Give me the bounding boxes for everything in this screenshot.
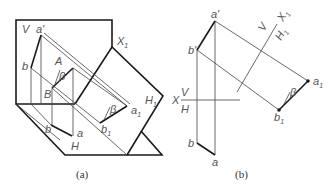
label-b1: b1 — [101, 123, 111, 137]
label-V1: V — [255, 19, 270, 33]
x1-axis — [237, 24, 277, 92]
projection-diagram: V a' b A β B X1 H1 β a1 b1 b a H (a) — [0, 0, 336, 192]
label-a: a — [212, 156, 218, 168]
projector-b-b1 — [197, 50, 279, 110]
line-ab-h — [51, 125, 72, 136]
point-a1 — [306, 79, 310, 83]
label-H1: H1 — [145, 94, 157, 108]
label-b-prime: b' — [188, 44, 197, 56]
projector-a-a1 — [41, 35, 127, 106]
label-b1: b1 — [274, 111, 284, 125]
line-a-prime-b-prime — [197, 21, 215, 50]
label-beta-top: β — [58, 70, 66, 82]
line-ab — [197, 143, 215, 155]
projector-A-a1 — [73, 68, 127, 106]
label-a1: a1 — [131, 104, 141, 118]
label-V: V — [22, 23, 31, 35]
figure-a: V a' b A β B X1 H1 β a1 b1 b a H (a) — [16, 20, 163, 181]
v-plane-outline — [16, 20, 112, 104]
label-beta: β — [289, 86, 297, 98]
label-A: A — [54, 55, 62, 67]
h-diag-1 — [16, 104, 60, 140]
label-a-h: a — [77, 127, 83, 139]
label-X: X — [171, 94, 180, 106]
label-a-prime: a' — [36, 23, 45, 35]
label-a1: a1 — [313, 75, 323, 89]
label-X1: X1 — [116, 35, 128, 49]
label-H: H — [181, 103, 189, 115]
label-H: H — [71, 140, 79, 152]
label-B: B — [44, 88, 51, 100]
caption-b: (b) — [235, 168, 248, 181]
label-H1: H1 — [272, 26, 290, 43]
figure-b: a' b' X V H V H1 X1 a1 b1 β b a (b) — [171, 7, 323, 181]
label-b: b — [22, 60, 28, 72]
line-a-prime-b — [31, 35, 41, 68]
label-X1: X1 — [274, 7, 292, 25]
label-a-prime: a' — [211, 8, 220, 20]
label-b: b — [188, 137, 194, 149]
caption-a: (a) — [76, 168, 89, 181]
label-beta-right: β — [109, 103, 117, 115]
label-b-h: b — [45, 123, 51, 135]
label-V: V — [181, 86, 190, 98]
